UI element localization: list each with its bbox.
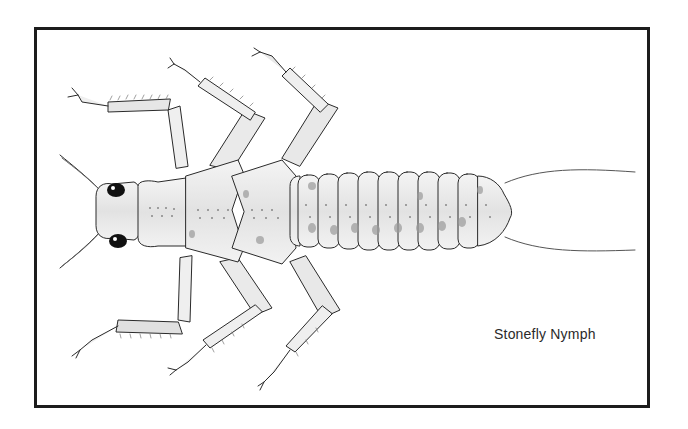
pronotum (138, 178, 188, 247)
figure-caption: Stonefly Nymph (494, 326, 596, 342)
eye-upper (107, 183, 125, 197)
eye-lower (109, 234, 127, 248)
foreleg-upper (68, 88, 188, 168)
foreleg-lower (72, 256, 192, 358)
antenna-lower (60, 230, 102, 268)
cerci (505, 170, 635, 251)
hindleg-upper (252, 48, 338, 166)
stonefly-nymph-illustration (0, 0, 688, 429)
hindleg-lower (258, 256, 340, 390)
metanotum (232, 160, 296, 264)
antenna-upper (60, 155, 102, 192)
abdomen (290, 172, 512, 250)
